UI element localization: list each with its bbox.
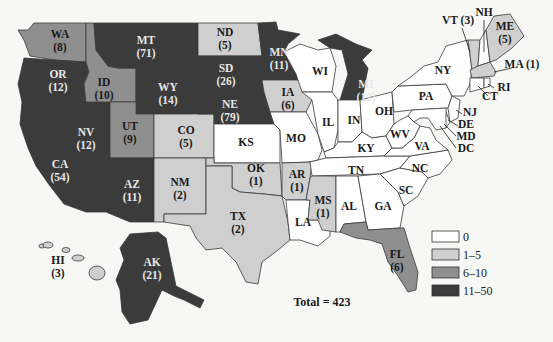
state-value-CO: (5)	[179, 137, 193, 150]
state-label-IL: IL	[322, 116, 334, 128]
state-label-MD: MD	[456, 130, 475, 142]
state-label-OH: OH	[375, 105, 393, 117]
state-value-MS: (1)	[316, 207, 330, 220]
legend-item-0: 0	[432, 230, 469, 244]
legend: 0 1–5 6–10 11–50	[432, 230, 493, 298]
legend-swatch	[432, 267, 459, 278]
state-value-OK: (1)	[249, 175, 263, 188]
state-label-MT: MT	[137, 34, 156, 46]
state-label-GA: GA	[374, 200, 392, 212]
state-label-MN: MN	[269, 46, 289, 58]
state-label-AK: AK	[143, 256, 160, 268]
state-FL	[340, 222, 418, 292]
state-OR	[18, 58, 89, 102]
state-label-FL: FL	[390, 248, 405, 260]
state-label-MA: MA (1)	[505, 58, 540, 71]
legend-swatch	[432, 249, 459, 260]
state-value-AR: (1)	[290, 181, 304, 194]
state-label-HI: HI	[51, 254, 65, 266]
legend-label: 1–5	[463, 248, 481, 262]
state-value-OR: (12)	[48, 81, 67, 94]
state-value-AK: (21)	[142, 269, 161, 282]
state-label-CT: CT	[482, 90, 498, 102]
legend-label: 0	[463, 230, 469, 244]
state-value-MI: (12)	[356, 91, 375, 104]
state-label-SC: SC	[399, 184, 414, 196]
state-value-WY: (14)	[158, 94, 177, 107]
state-value-AZ: (11)	[123, 191, 142, 204]
legend-item-3: 11–50	[432, 284, 493, 298]
state-label-DC: DC	[458, 142, 475, 154]
state-label-TX: TX	[230, 210, 247, 222]
state-label-VT: VT (3)	[442, 14, 474, 27]
state-value-NE: (79)	[220, 111, 239, 124]
state-value-WA: (8)	[53, 41, 67, 54]
state-label-WV: WV	[390, 128, 411, 140]
legend-item-2: 6–10	[432, 266, 487, 280]
state-label-WI: WI	[312, 65, 329, 77]
state-HI	[39, 242, 105, 280]
state-label-WA: WA	[51, 28, 70, 40]
state-label-WY: WY	[158, 81, 179, 93]
state-label-SD: SD	[219, 62, 234, 74]
state-label-CA: CA	[52, 158, 69, 170]
legend-label: 11–50	[463, 284, 493, 298]
state-label-OR: OR	[49, 68, 67, 80]
map-canvas: WA(8)OR(12)CA(54)NV(12)ID(10)MT(71)WY(14…	[0, 0, 553, 342]
state-label-NY: NY	[435, 64, 452, 76]
state-label-AR: AR	[289, 168, 306, 180]
state-label-ND: ND	[217, 26, 234, 38]
state-label-CO: CO	[177, 124, 194, 136]
state-CO	[154, 114, 214, 158]
state-value-ND: (5)	[218, 39, 232, 52]
state-value-MN: (11)	[270, 59, 289, 72]
state-value-ID: (10)	[94, 89, 113, 102]
state-value-FL: (6)	[390, 261, 404, 274]
state-label-AL: AL	[341, 200, 357, 212]
state-label-ID: ID	[98, 76, 111, 88]
state-label-NE: NE	[222, 98, 238, 110]
state-label-DE: DE	[458, 118, 474, 130]
state-value-TX: (2)	[231, 223, 245, 236]
state-label-ME: ME	[496, 20, 515, 32]
state-label-AZ: AZ	[124, 178, 140, 190]
legend-swatch	[432, 231, 459, 242]
state-label-NV: NV	[78, 126, 95, 138]
legend-label: 6–10	[463, 266, 487, 280]
state-value-NV: (12)	[76, 139, 95, 152]
state-label-NJ: NJ	[463, 106, 477, 118]
state-label-PA: PA	[419, 90, 434, 102]
us-choropleth-map: WA(8)OR(12)CA(54)NV(12)ID(10)MT(71)WY(14…	[0, 0, 553, 342]
state-label-KS: KS	[238, 136, 253, 148]
state-label-LA: LA	[295, 216, 312, 228]
state-label-NM: NM	[170, 176, 189, 188]
state-label-TN: TN	[348, 164, 365, 176]
state-value-CA: (54)	[50, 171, 69, 184]
state-value-ME: (5)	[498, 33, 512, 46]
state-label-KY: KY	[357, 142, 375, 154]
state-label-MI: MI	[358, 78, 374, 90]
total-label: Total = 423	[293, 295, 350, 309]
state-value-NM: (2)	[173, 189, 187, 202]
state-label-IA: IA	[282, 86, 295, 98]
state-value-IA: (6)	[281, 99, 295, 112]
state-label-NH: NH	[475, 6, 492, 18]
state-value-HI: (3)	[51, 267, 65, 280]
state-RI	[484, 78, 490, 88]
state-label-MO: MO	[286, 132, 306, 144]
state-value-MT: (71)	[136, 47, 155, 60]
state-value-UT: (9)	[123, 133, 137, 146]
legend-swatch	[432, 285, 459, 296]
state-label-VA: VA	[414, 140, 430, 152]
state-value-SD: (26)	[216, 75, 235, 88]
legend-item-1: 1–5	[432, 248, 481, 262]
state-label-RI: RI	[498, 81, 511, 93]
state-label-MS: MS	[314, 194, 331, 206]
state-label-IN: IN	[348, 114, 361, 126]
state-label-OK: OK	[247, 162, 265, 174]
state-label-UT: UT	[122, 120, 138, 132]
state-label-NC: NC	[412, 162, 429, 174]
